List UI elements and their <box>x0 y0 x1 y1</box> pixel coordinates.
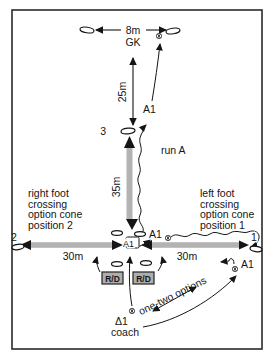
left-note: right foot crossing option cone position… <box>28 187 82 231</box>
right-arrowhead-icon <box>112 240 123 250</box>
a1-run-label: A1 <box>143 103 156 115</box>
ball-top-icon <box>156 33 161 38</box>
up-arrowhead-icon <box>124 136 135 148</box>
distance-30m-right-label: 30m <box>177 250 198 262</box>
left-rd-arrow <box>97 257 100 272</box>
coach-pass-line <box>129 257 132 306</box>
right-arrowhead-icon <box>239 241 249 250</box>
cone-1-icon <box>250 246 263 253</box>
centre-sw-cone-icon <box>112 262 123 267</box>
a1-right-label: A1 <box>241 258 254 270</box>
cone-1-label: 1 <box>251 231 257 243</box>
cone-2-label: 2 <box>11 231 17 243</box>
coach-label: coach <box>111 326 139 338</box>
training-diagram: R/D R/D 8m GK 25m 3 A1 run A 35m 2 1 30m… <box>0 0 274 362</box>
gk-label: GK <box>125 36 140 48</box>
ball-right-icon <box>232 266 237 271</box>
right-note-line4: position 1 <box>200 219 245 231</box>
right-rd-arrow <box>158 257 162 271</box>
ball-centre-icon <box>165 235 170 240</box>
diagram-canvas: R/D R/D 8m GK 25m 3 A1 run A 35m 2 1 30m… <box>0 0 274 362</box>
run-a-wavy-path <box>138 125 146 233</box>
down-arrowhead-icon <box>126 219 138 230</box>
cone-2-icon <box>12 244 25 251</box>
a1-option-label: A1 <box>149 228 162 240</box>
run-a-label: run A <box>161 144 186 156</box>
distance-25m-label: 25m <box>116 82 128 103</box>
a1-centre-label: A1 <box>123 239 134 249</box>
left-30m-bar <box>20 240 123 250</box>
right-note: left foot crossing option cone position … <box>200 187 254 231</box>
cone-3-icon <box>121 127 136 134</box>
vertical-35m-bar <box>124 136 138 230</box>
centre-nw-cone-icon <box>112 231 123 236</box>
rd-left-label: R/D <box>105 274 120 284</box>
gk-right-cone-icon <box>166 27 181 34</box>
cone-3-label: 3 <box>100 125 106 137</box>
distance-35m-label: 35m <box>110 177 122 198</box>
centre-ne-cone-icon <box>135 232 146 237</box>
rd-right-box: R/D <box>133 272 154 284</box>
ball-coach-icon <box>129 308 134 313</box>
distance-8m-label: 8m <box>126 24 141 36</box>
diagram-frame <box>12 10 262 349</box>
distance-30m-left-label: 30m <box>63 250 84 262</box>
rd-left-box: R/D <box>102 272 123 284</box>
a1-right-hook-arrow <box>221 259 234 264</box>
left-note-line4: position 2 <box>28 219 73 231</box>
right-30m-bar <box>141 240 249 250</box>
run-a-upper-path <box>152 44 160 101</box>
gk-left-cone-icon <box>80 26 95 33</box>
rd-right-label: R/D <box>136 274 151 284</box>
centre-se-cone-icon <box>141 261 152 266</box>
